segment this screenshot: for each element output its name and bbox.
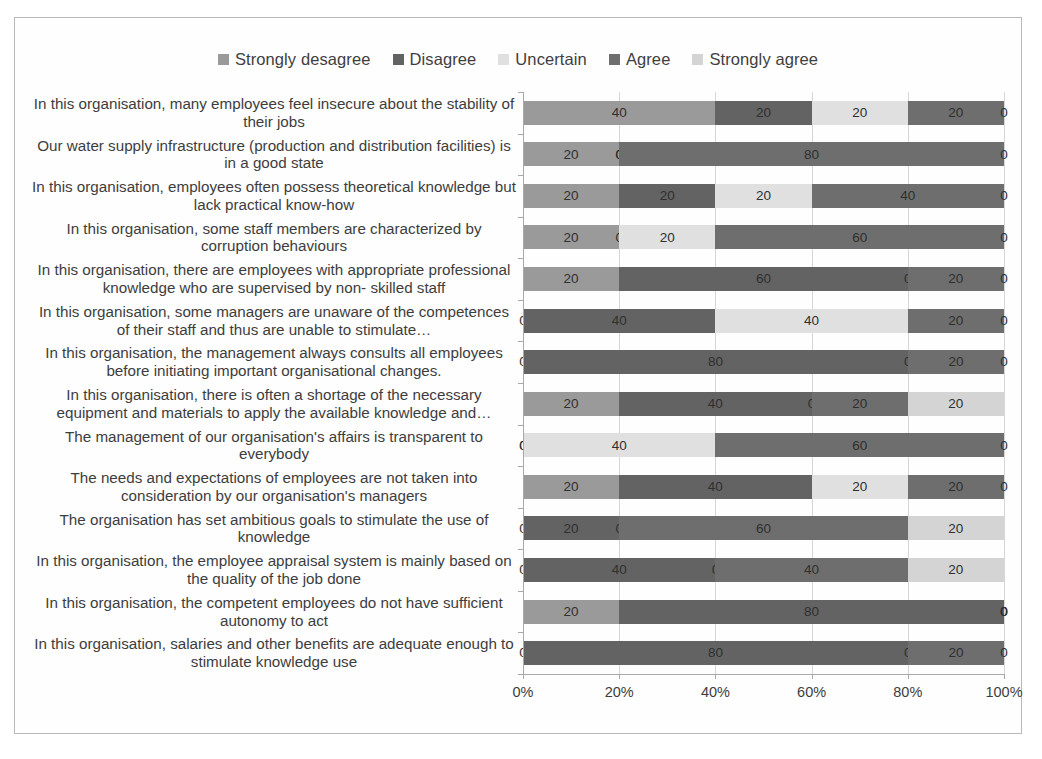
bar-segment[interactable]: 20	[908, 641, 1004, 665]
category-axis-line	[523, 92, 524, 674]
stacked-bar[interactable]: 04040200	[523, 309, 1004, 333]
bar-value-label: 0	[1000, 231, 1008, 245]
bar-segment[interactable]: 20	[715, 184, 811, 208]
bar-value-label: 20	[852, 106, 867, 120]
bar-segment[interactable]: 80	[619, 142, 1004, 166]
stacked-bar[interactable]: 04004020	[523, 558, 1004, 582]
stacked-bar[interactable]: 20600200	[523, 267, 1004, 291]
stacked-bar[interactable]: 202020400	[523, 184, 1004, 208]
chart-legend: Strongly desagreeDisagreeUncertainAgreeS…	[15, 50, 1021, 69]
axis-tick-label: 60%	[797, 684, 826, 700]
category-tick	[518, 300, 523, 301]
chart-row: The organisation has set ambitious goals…	[32, 508, 1004, 550]
gridline	[1004, 508, 1005, 550]
bar-value-label: 40	[708, 480, 723, 494]
chart-row: In this organisation, the management alw…	[32, 341, 1004, 383]
bar-segment[interactable]: 80	[523, 641, 908, 665]
legend-label: Strongly desagree	[235, 50, 371, 69]
stacked-bar[interactable]: 20020600	[523, 225, 1004, 249]
category-label: In this organisation, there is often a s…	[32, 386, 523, 422]
bar-segment[interactable]: 20	[908, 475, 1004, 499]
bar-segment[interactable]: 40	[523, 433, 715, 457]
bar-segment[interactable]: 60	[715, 225, 1004, 249]
stacked-bar[interactable]: 0800200	[523, 350, 1004, 374]
bar-value-label: 0	[1000, 480, 1008, 494]
bar-segment[interactable]: 20	[619, 184, 715, 208]
bar-value-label: 0	[1000, 355, 1008, 369]
bar-segment[interactable]: 20	[523, 267, 619, 291]
bar-segment[interactable]: 20	[812, 475, 908, 499]
bar-track: 20600200	[523, 258, 1004, 300]
bar-segment[interactable]: 40	[715, 558, 907, 582]
stacked-bar[interactable]: 402020200	[523, 101, 1004, 125]
bar-segment[interactable]: 20	[523, 516, 619, 540]
legend-swatch-icon	[393, 54, 404, 65]
bar-segment[interactable]: 20	[523, 184, 619, 208]
bar-segment[interactable]: 20	[908, 267, 1004, 291]
category-label: The organisation has set ambitious goals…	[32, 511, 523, 547]
bar-segment[interactable]: 40	[715, 309, 907, 333]
bar-segment[interactable]: 20	[908, 350, 1004, 374]
bar-segment[interactable]: 20	[908, 392, 1004, 416]
bar-segment[interactable]: 20	[908, 558, 1004, 582]
bar-segment[interactable]: 20	[523, 225, 619, 249]
bar-value-label: 20	[564, 148, 579, 162]
category-label: The management of our organisation's aff…	[32, 428, 523, 464]
bar-value-label: 80	[804, 148, 819, 162]
bar-segment[interactable]: 20	[908, 516, 1004, 540]
bar-segment[interactable]: 40	[619, 475, 811, 499]
stacked-bar[interactable]: 0040600	[523, 433, 1004, 457]
bar-value-label: 20	[948, 272, 963, 286]
bar-value-label: 20	[948, 397, 963, 411]
chart-row: In this organisation, the employee appra…	[32, 549, 1004, 591]
stacked-bar[interactable]: 0800200	[523, 641, 1004, 665]
bar-segment[interactable]: 20	[908, 309, 1004, 333]
bar-segment[interactable]: 40	[523, 101, 715, 125]
bar-value-label: 20	[564, 522, 579, 536]
bar-segment[interactable]: 20	[812, 101, 908, 125]
bar-segment[interactable]: 20	[715, 101, 811, 125]
stacked-bar[interactable]: 02006020	[523, 516, 1004, 540]
bar-segment[interactable]: 20	[908, 101, 1004, 125]
legend-swatch-icon	[609, 54, 620, 65]
legend-item: Disagree	[393, 50, 477, 69]
category-label: In this organisation, there are employee…	[32, 261, 523, 297]
bar-segment[interactable]: 60	[619, 516, 908, 540]
bar-value-label: 80	[708, 355, 723, 369]
bar-segment[interactable]: 40	[619, 392, 811, 416]
bar-segment[interactable]: 20	[523, 475, 619, 499]
stacked-bar[interactable]: 2000800	[523, 142, 1004, 166]
chart-row: In this organisation, some staff members…	[32, 217, 1004, 259]
bar-segment[interactable]: 20	[523, 142, 619, 166]
bar-track: 0040600	[523, 425, 1004, 467]
bar-segment[interactable]: 60	[715, 433, 1004, 457]
plot-area: In this organisation, many employees fee…	[32, 92, 1004, 717]
bar-segment[interactable]: 20	[812, 392, 908, 416]
value-axis: 0%20%40%60%80%100%	[523, 674, 1004, 717]
bar-segment[interactable]: 60	[619, 267, 908, 291]
bar-segment[interactable]: 20	[619, 225, 715, 249]
legend-item: Strongly desagree	[218, 50, 371, 69]
stacked-bar[interactable]: 204020200	[523, 475, 1004, 499]
bar-segment[interactable]: 40	[523, 309, 715, 333]
bar-value-label: 20	[756, 106, 771, 120]
bar-value-label: 0	[1000, 646, 1008, 660]
bar-track: 0800200	[523, 632, 1004, 674]
bar-value-label: 20	[948, 522, 963, 536]
chart-row: Our water supply infrastructure (product…	[32, 134, 1004, 176]
bar-segment[interactable]: 80	[523, 350, 908, 374]
category-label: In this organisation, the management alw…	[32, 344, 523, 380]
category-tick	[518, 591, 523, 592]
category-label: Our water supply infrastructure (product…	[32, 137, 523, 173]
stacked-bar[interactable]: 2080000	[523, 600, 1004, 624]
legend-swatch-icon	[218, 54, 229, 65]
bar-segment[interactable]: 20	[523, 392, 619, 416]
category-tick	[518, 632, 523, 633]
bar-value-label: 20	[948, 563, 963, 577]
bar-segment[interactable]: 80	[619, 600, 1004, 624]
bar-segment[interactable]: 20	[523, 600, 619, 624]
bar-segment[interactable]: 40	[812, 184, 1004, 208]
bar-value-label: 20	[948, 314, 963, 328]
stacked-bar[interactable]: 204002020	[523, 392, 1004, 416]
bar-segment[interactable]: 40	[523, 558, 715, 582]
